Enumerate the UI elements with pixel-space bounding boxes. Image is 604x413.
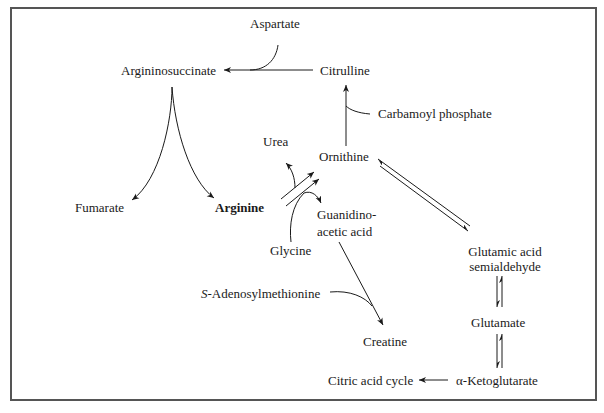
node-carbamoyl-phosphate: Carbamoyl phosphate	[378, 106, 492, 121]
node-ornithine: Ornithine	[319, 149, 369, 164]
node-s-adenosylmethionine: S-Adenosylmethionine	[201, 286, 320, 301]
arrow-guanidino-release	[304, 192, 321, 203]
node-glutamate: Glutamate	[471, 315, 525, 330]
node-citrulline: Citrulline	[320, 63, 370, 78]
arrow-argsucc-to-arginine	[172, 87, 214, 198]
arrow-arginine-to-ornithine-glycine	[286, 179, 319, 206]
node-glutamic-semialdehyde: Glutamic acid semialdehyde	[460, 244, 550, 274]
arrow-carbamoyl-join	[346, 106, 370, 114]
arrow-guanidino-to-creatine	[339, 242, 383, 325]
arrow-aspartate-join	[250, 45, 278, 70]
arrow-urea-release	[286, 163, 295, 188]
node-arginine: Arginine	[215, 200, 264, 215]
node-glycine: Glycine	[270, 243, 311, 258]
sam-rest: -Adenosylmethionine	[208, 286, 321, 301]
node-guanidinoacetic-line2: acetic acid	[317, 224, 372, 239]
arrow-arginine-to-ornithine-urea	[281, 172, 314, 199]
arrow-gsa-to-ornithine	[378, 159, 470, 226]
arrow-ornithine-to-gsa	[380, 166, 468, 231]
node-urea: Urea	[263, 134, 288, 149]
arrow-argsucc-to-fumarate	[132, 87, 172, 200]
node-argininosuccinate: Argininosuccinate	[121, 63, 216, 78]
node-gsa-line1: Glutamic acid	[460, 244, 550, 259]
node-aspartate: Aspartate	[250, 16, 300, 31]
node-fumarate: Fumarate	[75, 200, 124, 215]
node-gsa-line2: semialdehyde	[460, 259, 550, 274]
node-creatine: Creatine	[363, 334, 407, 349]
node-alpha-ketoglutarate: α-Ketoglutarate	[456, 373, 538, 388]
arrow-sam-join	[330, 292, 372, 306]
node-citric-acid-cycle: Citric acid cycle	[328, 373, 413, 388]
node-guanidinoacetic-line1: Guanidino-	[317, 207, 376, 222]
